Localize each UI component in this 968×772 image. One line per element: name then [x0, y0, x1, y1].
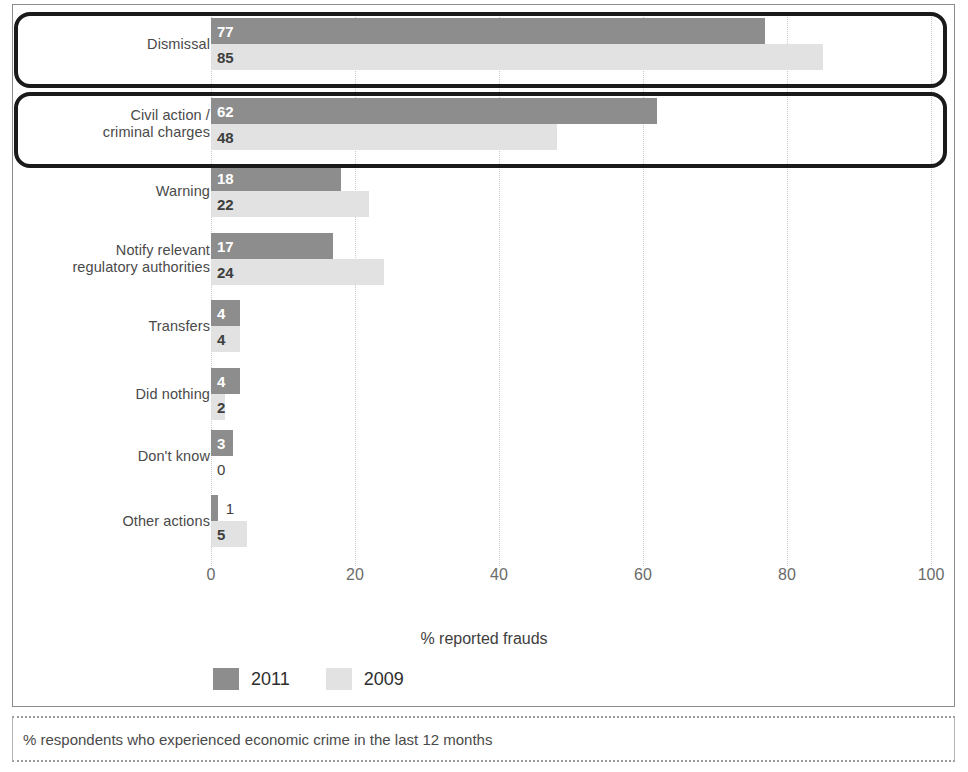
category-label-line: regulatory authorities — [40, 259, 210, 276]
x-axis-title: % reported frauds — [0, 630, 968, 648]
footer-note-text: % respondents who experienced economic c… — [13, 731, 492, 748]
category-label: Notify relevantregulatory authorities — [40, 242, 210, 276]
bar-2009-24[interactable]: 24 — [211, 259, 384, 285]
category-label-line: criminal charges — [40, 124, 210, 141]
bar-group: 7785 — [211, 18, 823, 70]
legend-swatch-icon — [213, 668, 239, 690]
bar-2011-17[interactable]: 17 — [211, 233, 333, 259]
legend-label: 2011 — [251, 669, 290, 690]
category-label: Other actions — [40, 513, 210, 530]
bar-value-label: 5 — [217, 526, 225, 543]
category-label: Civil action /criminal charges — [40, 107, 210, 141]
bar-2011-4[interactable]: 4 — [211, 300, 240, 326]
category-label-line: Warning — [40, 183, 210, 200]
category-label-line: Notify relevant — [40, 242, 210, 259]
x-tick-label: 60 — [613, 566, 673, 584]
bar-value-label: 1 — [226, 500, 234, 517]
bar-value-label: 3 — [217, 435, 225, 452]
legend-label: 2009 — [364, 669, 404, 690]
bar-2011-77[interactable]: 77 — [211, 18, 765, 44]
bar-value-label: 77 — [217, 23, 234, 40]
bar-2009-5[interactable]: 5 — [211, 521, 247, 547]
bar-value-label: 4 — [217, 305, 225, 322]
chart-page: Dismissal7785Civil action /criminal char… — [0, 0, 968, 772]
bar-2011-18[interactable]: 18 — [211, 165, 341, 191]
bar-2011-3[interactable]: 3 — [211, 430, 233, 456]
chart-legend: 20112009 — [213, 668, 404, 690]
bar-2009-48[interactable]: 48 — [211, 124, 557, 150]
bar-2009-2[interactable]: 2 — [211, 394, 225, 420]
bar-group: 15 — [211, 495, 247, 547]
x-tick-label: 40 — [469, 566, 529, 584]
bar-group: 42 — [211, 368, 240, 420]
legend-item-2009[interactable]: 2009 — [326, 668, 404, 690]
bar-2009-22[interactable]: 22 — [211, 191, 369, 217]
bar-group: 30 — [211, 430, 233, 482]
bar-group: 44 — [211, 300, 240, 352]
category-label: Don't know — [40, 448, 210, 465]
bar-2009-4[interactable]: 4 — [211, 326, 240, 352]
category-label-line: Other actions — [40, 513, 210, 530]
legend-swatch-icon — [326, 668, 352, 690]
category-label-line: Civil action / — [40, 107, 210, 124]
category-label: Warning — [40, 183, 210, 200]
bar-value-label: 24 — [217, 264, 234, 281]
category-label-line: Don't know — [40, 448, 210, 465]
legend-item-2011[interactable]: 2011 — [213, 668, 290, 690]
bar-value-label: 85 — [217, 49, 234, 66]
x-tick-label: 0 — [181, 566, 241, 584]
bar-value-label: 2 — [217, 399, 225, 416]
x-tick-label: 20 — [325, 566, 385, 584]
category-label-line: Transfers — [40, 318, 210, 335]
bar-value-label: 22 — [217, 196, 234, 213]
plot-area: Dismissal7785Civil action /criminal char… — [0, 0, 968, 600]
category-label-line: Did nothing — [40, 386, 210, 403]
bar-group: 1822 — [211, 165, 369, 217]
bar-value-label: 62 — [217, 103, 234, 120]
bar-value-label: 17 — [217, 238, 234, 255]
category-label-line: Dismissal — [40, 36, 210, 53]
bar-value-label: 4 — [217, 331, 225, 348]
x-tick-label: 100 — [901, 566, 961, 584]
bar-value-label: 0 — [217, 461, 227, 478]
category-label: Did nothing — [40, 386, 210, 403]
bar-group: 1724 — [211, 233, 384, 285]
x-tick-label: 80 — [757, 566, 817, 584]
category-label: Dismissal — [40, 36, 210, 53]
bar-value-label: 48 — [217, 129, 234, 146]
category-label: Transfers — [40, 318, 210, 335]
bar-2011-4[interactable]: 4 — [211, 368, 240, 394]
bar-2011-1[interactable]: 1 — [211, 495, 218, 521]
bar-2009-85[interactable]: 85 — [211, 44, 823, 70]
bar-2011-62[interactable]: 62 — [211, 98, 657, 124]
bar-group: 6248 — [211, 98, 657, 150]
bar-value-label: 4 — [217, 373, 225, 390]
footer-note-box: % respondents who experienced economic c… — [12, 716, 955, 762]
bar-value-label: 18 — [217, 170, 234, 187]
